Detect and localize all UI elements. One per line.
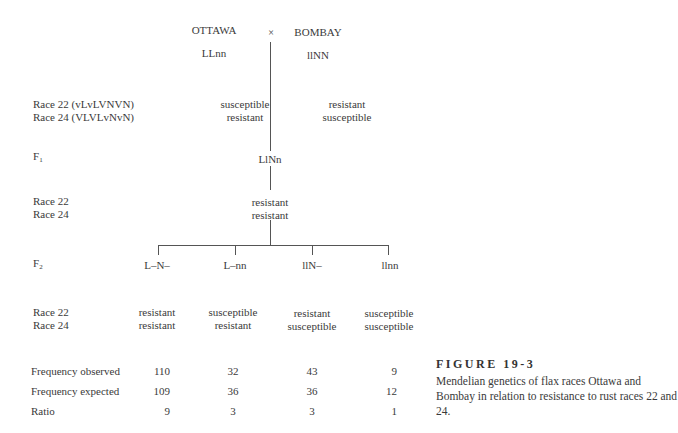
f2-reactions-4: susceptible susceptible: [365, 307, 414, 333]
figure-caption-title: FIGURE 19-3: [436, 358, 535, 371]
f1-to-f2-line: [270, 220, 271, 245]
expected-2: 36: [228, 385, 239, 398]
f2-reactions-2: susceptible resistant: [209, 306, 258, 332]
expected-1: 109: [154, 385, 171, 398]
f1-stem-line: [270, 166, 271, 190]
f2-branch-tick-1: [158, 245, 159, 255]
parent-bombay-genotype: llNN: [307, 49, 329, 62]
f2-genotype-3: llN–: [302, 259, 322, 272]
f2-3-race22: resistant: [294, 307, 331, 320]
f1-reactions: resistant resistant: [252, 196, 289, 222]
f2-branch-tick-3: [312, 245, 313, 255]
ottawa-race22: susceptible: [221, 98, 270, 111]
label-freq-expected: Frequency expected: [31, 385, 119, 398]
ottawa-race24: resistant: [227, 111, 264, 124]
cross-stem-line: [270, 42, 271, 151]
label-race24-f1: Race 24: [33, 208, 69, 221]
bombay-race24: susceptible: [323, 111, 372, 124]
label-race22-parent: Race 22 (vLvLVNVN): [33, 98, 134, 111]
parent-bombay-name: BOMBAY: [294, 26, 341, 39]
f2-4-race24: susceptible: [365, 320, 414, 333]
label-freq-observed: Frequency observed: [31, 365, 120, 378]
f2-4-race22: susceptible: [365, 307, 414, 320]
ratio-4: 1: [392, 405, 398, 418]
f2-2-race24: resistant: [215, 319, 252, 332]
label-race24-parent: Race 24 (VLVLvNvN): [33, 111, 134, 124]
observed-2: 32: [228, 365, 239, 378]
f1-genotype: LlNn: [256, 153, 283, 166]
cross-symbol: ×: [268, 26, 274, 39]
f2-branch-line: [158, 245, 389, 246]
parent-ottawa-genotype: LLnn: [202, 47, 226, 60]
ratio-1: 9: [165, 405, 171, 418]
f1-race24: resistant: [252, 209, 289, 222]
parent-ottawa-name: OTTAWA: [192, 24, 237, 37]
f2-reactions-3: resistant susceptible: [288, 307, 337, 333]
ratio-2: 3: [230, 405, 236, 418]
f2-reactions-1: resistant resistant: [139, 306, 176, 332]
ratio-3: 3: [309, 405, 315, 418]
bombay-reactions: resistant susceptible: [323, 98, 372, 124]
expected-3: 36: [307, 385, 318, 398]
figure-caption-text: Mendelian genetics of flax races Ottawa …: [436, 374, 678, 419]
observed-1: 110: [154, 365, 170, 378]
f1-race-labels: Race 22 Race 24: [33, 195, 69, 221]
label-race22-f1: Race 22: [33, 195, 69, 208]
f2-genotype-1: L–N–: [144, 259, 170, 272]
f2-3-race24: susceptible: [288, 320, 337, 333]
f2-race-labels: Race 22 Race 24: [33, 306, 69, 332]
f2-genotype-4: llnn: [381, 259, 398, 272]
parent-race-labels: Race 22 (vLvLVNVN) Race 24 (VLVLvNvN): [33, 98, 134, 124]
expected-4: 12: [386, 385, 397, 398]
label-f2: F2: [33, 257, 43, 274]
observed-4: 9: [392, 365, 398, 378]
f2-branch-tick-4: [388, 245, 389, 255]
bombay-race22: resistant: [329, 98, 366, 111]
f2-branch-tick-2: [235, 245, 236, 255]
f2-genotype-2: L–nn: [223, 259, 246, 272]
f2-2-race22: susceptible: [209, 306, 258, 319]
label-f1: F1: [33, 150, 43, 167]
ottawa-reactions: susceptible resistant: [221, 98, 270, 124]
f2-1-race24: resistant: [139, 319, 176, 332]
f1-race22: resistant: [252, 196, 289, 209]
f2-1-race22: resistant: [139, 306, 176, 319]
observed-3: 43: [307, 365, 318, 378]
label-race24-f2: Race 24: [33, 319, 69, 332]
label-race22-f2: Race 22: [33, 306, 69, 319]
label-ratio: Ratio: [31, 405, 55, 418]
